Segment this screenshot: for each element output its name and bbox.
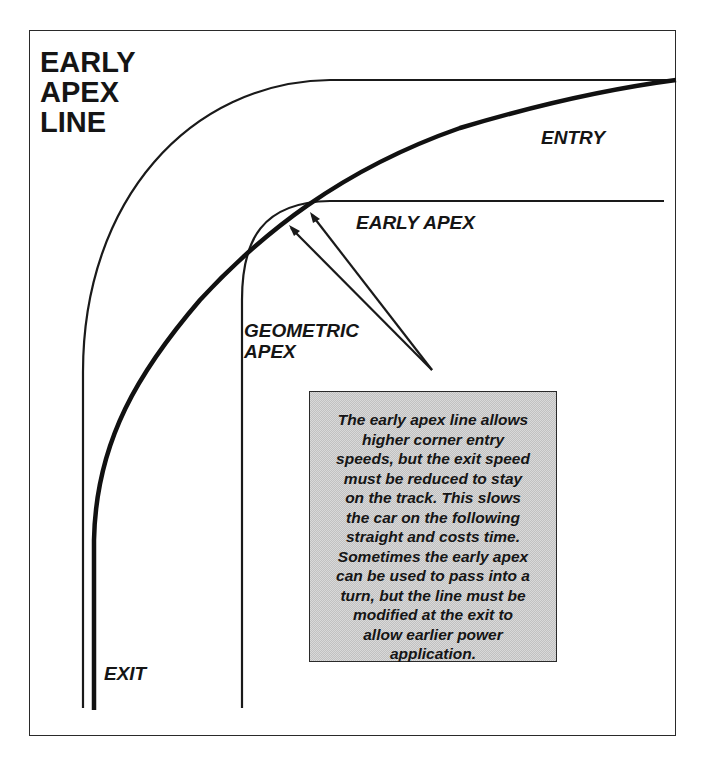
exit-label: EXIT	[104, 663, 146, 685]
geometric-apex-label-line: APEX	[244, 341, 359, 362]
title-line: LINE	[40, 107, 136, 137]
geometric-apex-label: GEOMETRIC APEX	[244, 320, 359, 362]
title-line: EARLY	[40, 47, 136, 77]
geometric-apex-label-line: GEOMETRIC	[244, 320, 359, 341]
note-line: Sometimes the early apex	[310, 547, 556, 567]
note-line: The early apex line allows	[310, 410, 556, 430]
note-line: modified at the exit to	[310, 605, 556, 625]
note-line: can be used to pass into a	[310, 566, 556, 586]
note-line: application.	[310, 644, 556, 664]
note-line: must be reduced to stay	[310, 469, 556, 489]
note-line: speeds, but the exit speed	[310, 449, 556, 469]
note-line: straight and costs time.	[310, 527, 556, 547]
note-line: on the track. This slows	[310, 488, 556, 508]
entry-label: ENTRY	[541, 127, 605, 149]
note-line: higher corner entry	[310, 430, 556, 450]
note-line: the car on the following	[310, 508, 556, 528]
note-line: allow earlier power	[310, 625, 556, 645]
note-line: turn, but the line must be	[310, 586, 556, 606]
title-line: APEX	[40, 77, 136, 107]
early-apex-label: EARLY APEX	[356, 212, 475, 234]
diagram-title: EARLY APEX LINE	[40, 47, 136, 137]
explanation-note-box: The early apex line allows higher corner…	[309, 391, 557, 662]
